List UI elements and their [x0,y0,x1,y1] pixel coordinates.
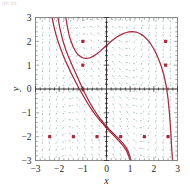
x-tick-label: 0 [104,164,109,174]
data-point [48,135,51,138]
y-tick-label: −1 [21,108,31,118]
x-tick-label: −2 [54,164,64,174]
y-tick-label: 1 [27,61,32,71]
data-point [119,135,122,138]
slope-field-plot: −3−2−10123−3−2−10123xy [0,0,190,187]
data-point [164,64,167,67]
data-point [72,135,75,138]
x-axis-title: x [103,175,109,186]
y-axis-title: y [10,86,21,92]
y-tick-label: −3 [21,156,31,166]
y-tick-label: 0 [27,84,32,94]
y-tick-label: −2 [21,132,31,142]
data-point [95,135,98,138]
x-tick-label: −3 [30,164,40,174]
data-point [81,40,84,43]
x-tick-label: 1 [128,164,133,174]
data-point [166,135,169,138]
x-tick-label: 2 [151,164,156,174]
data-point [164,40,167,43]
y-tick-label: 2 [27,37,32,47]
data-point [81,64,84,67]
x-tick-label: 3 [175,164,180,174]
y-tick-label: 3 [27,13,32,23]
x-tick-label: −1 [78,164,88,174]
data-point [143,135,146,138]
slope-field-figure: dy/dx −3−2−10123−3−2−10123xy [0,0,190,187]
